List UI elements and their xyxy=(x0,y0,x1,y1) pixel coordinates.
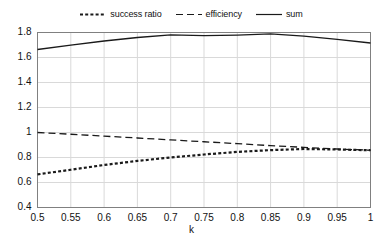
y-axis-tick-label: 1 xyxy=(0,127,32,137)
line-chart: success ratio efficiency sum 0.40.60.811… xyxy=(0,0,383,244)
y-axis-tick-label: 1.6 xyxy=(0,52,32,62)
x-axis-tick-label: 0.9 xyxy=(286,213,322,223)
plot-canvas xyxy=(0,0,383,244)
x-axis-tick-label: 0.65 xyxy=(119,213,155,223)
x-axis-tick-label: 0.85 xyxy=(253,213,289,223)
y-axis-tick-label: 0.8 xyxy=(0,152,32,162)
x-axis-tick-label: 0.8 xyxy=(219,213,255,223)
y-axis-tick-label: 0.6 xyxy=(0,177,32,187)
x-axis-tick-label: 0.95 xyxy=(319,213,355,223)
y-axis-tick-label: 1.4 xyxy=(0,77,32,87)
y-axis-tick-label: 1.8 xyxy=(0,27,32,37)
x-axis-tick-label: 0.5 xyxy=(20,213,56,223)
plot-area: 0.40.60.811.21.41.61.8 0.50.550.60.650.7… xyxy=(0,0,383,244)
x-axis-title: k xyxy=(0,224,383,235)
x-axis-tick-label: 0.55 xyxy=(53,213,89,223)
x-axis-tick-label: 0.7 xyxy=(153,213,189,223)
x-axis-tick-label: 0.6 xyxy=(86,213,122,223)
x-axis-tick-label: 0.75 xyxy=(186,213,222,223)
y-axis-tick-label: 0.4 xyxy=(0,202,32,212)
y-axis-tick-label: 1.2 xyxy=(0,102,32,112)
x-axis-tick-label: 1 xyxy=(353,213,383,223)
